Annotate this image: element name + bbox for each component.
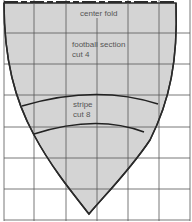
football-section-label: football section	[72, 40, 125, 49]
stripe-cut-label: cut 8	[73, 110, 90, 119]
pattern-svg	[0, 0, 192, 222]
center-fold-label: center fold	[80, 9, 117, 18]
stripe-label: stripe	[73, 100, 93, 109]
football-section-cut-label: cut 4	[72, 50, 89, 59]
football-pattern-diagram: center fold football section cut 4 strip…	[0, 0, 192, 222]
